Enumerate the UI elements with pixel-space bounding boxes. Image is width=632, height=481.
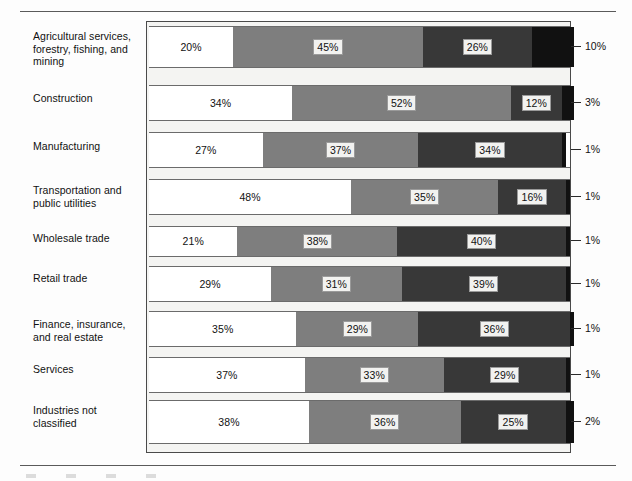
bar-segment-value: 36% [480,321,509,337]
bar-segment-3: 25% [461,401,566,443]
bar-segment-value: 29% [196,277,223,291]
bar-segment-2: 35% [351,180,498,214]
bar-row: 21%38%40%1% [149,226,570,257]
axis-tick-label: 2% [585,416,600,427]
bar-row: 37%33%29%1% [149,357,570,393]
axis-tick: 1% [571,190,600,202]
bar-segment-2: 29% [296,312,418,346]
category-label: Manufacturing [33,140,141,153]
bar-segment-value: 37% [326,142,355,158]
category-label: Finance, insurance, and real estate [33,318,141,343]
legend-chip-2 [66,474,76,478]
bar-segment-4: 10% [532,27,574,67]
bar-segment-1: 35% [149,312,296,346]
bar-rows-container: 20%45%26%10%34%52%12%3%27%37%34%1%48%35%… [149,24,570,452]
tick-mark-icon [571,46,581,47]
tick-mark-icon [571,240,581,241]
axis-tick-label: 1% [585,144,600,155]
bar-row: 27%37%34%1% [149,132,570,168]
axis-tick: 1% [571,368,600,380]
bar-segment-value: 35% [209,322,236,336]
bar-segment-4: 1% [566,180,570,214]
bar-segment-1: 27% [149,133,263,167]
bar-segment-value: 12% [522,95,551,111]
chart-page: 20%45%26%10%34%52%12%3%27%37%34%1%48%35%… [0,0,632,481]
axis-tick-label: 1% [585,369,600,380]
bar-segment-value: 48% [236,190,263,204]
bar-segment-4: 1% [566,267,570,301]
tick-mark-icon [571,283,581,284]
bar-segment-value: 26% [463,39,492,55]
bar-segment-3: 12% [511,86,562,120]
bar-segment-3: 34% [418,133,561,167]
chart-plot-frame: 20%45%26%10%34%52%12%3%27%37%34%1%48%35%… [146,21,571,453]
legend-chip-4 [146,474,156,478]
bar-segment-2: 33% [305,358,444,392]
category-label: Construction [33,92,141,105]
bar-segment-value: 52% [387,95,416,111]
axis-tick: 2% [571,415,600,427]
bar-row: 48%35%16%1% [149,179,570,215]
bar-segment-value: 38% [215,415,242,429]
bar-segment-3: 16% [498,180,565,214]
tick-mark-icon [571,421,581,422]
axis-tick-label: 10% [585,41,606,52]
bar-row: 20%45%26%10% [149,26,570,68]
tick-mark-icon [571,149,581,150]
axis-tick: 1% [571,143,600,155]
axis-tick: 3% [571,96,600,108]
bar-segment-value: 39% [469,276,498,292]
axis-tick: 10% [571,40,606,52]
bar-segment-2: 31% [271,267,402,301]
bar-segment-value: 40% [467,234,496,250]
axis-tick: 1% [571,277,600,289]
bar-segment-value: 20% [177,40,204,54]
bar-segment-4: 1% [566,227,570,256]
axis-tick-label: 1% [585,191,600,202]
tick-mark-icon [571,374,581,375]
axis-tick: 1% [571,235,600,247]
bar-segment-value: 25% [498,414,527,430]
category-label: Agricultural services, forestry, fishing… [33,30,141,68]
bar-segment-3: 36% [418,312,570,346]
bar-segment-3: 39% [402,267,566,301]
bar-segment-value: 29% [490,367,519,383]
bar-segment-value: 21% [180,235,207,249]
bar-segment-1: 21% [149,227,237,256]
bar-row: 35%29%36%1% [149,311,570,347]
axis-tick-label: 1% [585,235,600,246]
bar-segment-1: 48% [149,180,351,214]
category-label: Retail trade [33,272,141,285]
bar-row: 34%52%12%3% [149,85,570,121]
tick-mark-icon [571,102,581,103]
bar-segment-2: 45% [233,27,422,67]
bar-segment-value: 31% [322,276,351,292]
axis-tick: 1% [571,322,600,334]
legend-chip-1 [26,474,36,478]
bottom-divider-rule [20,465,616,466]
top-divider-rule [20,11,616,12]
bar-segment-1: 20% [149,27,233,67]
bar-segment-4: 1% [566,358,570,392]
bar-segment-value: 29% [343,321,372,337]
bar-segment-3: 29% [444,358,566,392]
bar-segment-value: 37% [213,368,240,382]
bar-segment-value: 34% [207,96,234,110]
category-label: Wholesale trade [33,232,141,245]
bar-segment-value: 27% [192,143,219,157]
bar-segment-value: 16% [517,189,546,205]
bar-segment-value: 33% [360,367,389,383]
bar-segment-1: 37% [149,358,305,392]
bar-segment-value: 35% [410,189,439,205]
tick-mark-icon [571,328,581,329]
bar-segment-1: 29% [149,267,271,301]
bar-segment-2: 38% [237,227,397,256]
legend-strip [26,474,326,479]
bar-segment-2: 36% [309,401,461,443]
tick-mark-icon [571,196,581,197]
bar-row: 38%36%25%2% [149,400,570,444]
bar-segment-value: 45% [313,39,342,55]
bar-segment-2: 37% [263,133,419,167]
category-label: Services [33,363,141,376]
bar-segment-value: 36% [370,414,399,430]
